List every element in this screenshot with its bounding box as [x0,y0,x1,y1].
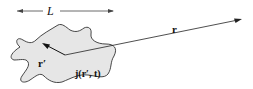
length-dimension: L [17,4,114,18]
source-point-label: r′ [38,57,46,69]
length-label: L [46,4,54,18]
diagram-canvas: L r′ j(r′, t) r [0,0,253,89]
field-point-label: r [172,23,177,35]
current-density-label: j(r′, t) [74,68,101,80]
